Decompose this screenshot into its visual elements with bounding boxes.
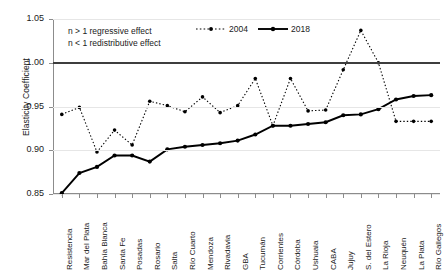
data-point [112,153,116,157]
series-line-2004 [62,30,431,152]
y-tick-mark [49,107,53,108]
data-point [359,112,363,116]
data-point [218,111,222,115]
y-tick-label: 0.90 [12,145,44,154]
data-point [148,160,152,164]
data-point [113,128,117,132]
data-point [254,77,258,81]
data-point [77,171,81,175]
data-point [394,97,398,101]
data-point [148,99,152,103]
plot-area [53,19,440,194]
data-point [236,139,240,143]
data-point [306,122,310,126]
y-tick-label: 1.00 [12,58,44,67]
x-tick-label: Tucumán [258,237,267,270]
y-tick-mark [49,150,53,151]
data-point [60,113,64,117]
x-tick-label: Río Gallegos [434,224,443,270]
x-tick-label: Córdoba [293,239,302,270]
y-tick-mark [49,19,53,20]
gridline [53,107,440,108]
data-point [95,165,99,169]
data-point [271,124,275,128]
y-tick-mark [49,194,53,195]
y-tick-label: 1.05 [12,14,44,23]
series-line-2018 [62,95,431,193]
data-point [306,109,310,113]
x-tick-label: La Plata [417,241,426,270]
x-tick-label: Resistencia [65,229,74,270]
gridline [53,194,440,195]
x-tick-label: CABA [329,248,338,270]
x-tick-label: Salta [170,252,179,270]
x-tick-label: Mar del Plata [82,223,91,270]
data-point [289,77,293,81]
x-tick-label: Bahía Blanca [100,222,109,270]
data-point [288,124,292,128]
elasticity-coefficient-chart: Elasticity Coefficient 0.850.900.951.001… [0,0,446,274]
data-point [412,120,416,124]
data-point [200,143,204,147]
gridline [53,19,440,20]
y-tick-label: 0.85 [12,189,44,198]
reference-line-1-00 [53,62,440,64]
x-tick-label: La Rioja [381,241,390,270]
x-tick-label: Ushuaia [311,241,320,270]
x-tick-label: Santa Fe [118,238,127,270]
y-axis-tick-labels: 0.850.900.951.001.05 [8,0,44,274]
x-tick-label: Neuquén [399,238,408,270]
x-tick-label: GBA [241,253,250,270]
data-point [253,132,257,136]
x-tick-label: Rosario [153,242,162,270]
data-point [412,94,416,98]
data-point [183,110,187,114]
data-point [429,93,433,97]
data-point [341,113,345,117]
data-point [130,143,134,147]
data-point [359,29,363,33]
data-point [324,108,328,112]
x-tick-label: Rivadavia [223,235,232,270]
x-tick-label: Jujuy [346,251,355,270]
x-tick-label: Corrientes [276,233,285,270]
gridline [53,150,440,151]
x-tick-label: Mendoza [206,237,215,270]
x-tick-label: Río Cuarto [188,231,197,270]
data-point [429,120,433,124]
data-point [201,95,205,99]
x-tick-label: Posadas [135,239,144,270]
x-axis-tick-labels: ResistenciaMar del PlataBahía BlancaSant… [53,196,440,274]
data-point [324,120,328,124]
x-tick-label: S. del Estero [364,224,373,270]
data-point [183,145,187,149]
data-point [341,68,345,72]
data-point [394,120,398,124]
data-point [130,153,134,157]
data-point [218,141,222,145]
data-point [376,107,380,111]
y-tick-label: 0.95 [12,102,44,111]
